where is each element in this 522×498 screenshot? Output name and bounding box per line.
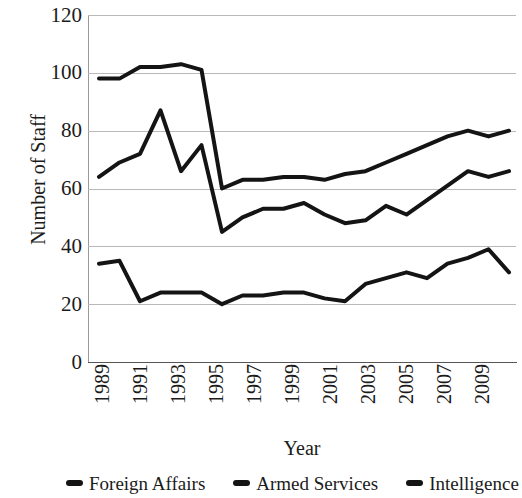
x-tick-label: 1993 <box>168 364 188 430</box>
y-tick-label: 80 <box>36 120 82 141</box>
chart-legend: Foreign Affairs Armed Services Intellige… <box>0 468 522 498</box>
y-tick-label: 0 <box>36 352 82 373</box>
x-axis-title: Year <box>88 437 516 460</box>
x-axis-line <box>88 362 517 363</box>
line-armed-services <box>99 110 509 231</box>
y-tick-label: 120 <box>36 5 82 26</box>
line-foreign-affairs <box>99 64 509 188</box>
x-axis-tick-labels: 1989 1991 1993 1995 1997 1999 2001 2003 … <box>88 364 516 436</box>
x-tick-label: 1995 <box>206 364 226 430</box>
series-lines <box>88 15 516 362</box>
x-tick-label: 2007 <box>434 364 454 430</box>
x-tick-label: 1991 <box>130 364 150 430</box>
line-intelligence <box>99 249 509 304</box>
legend-item-armed-services[interactable]: Armed Services <box>233 474 378 493</box>
y-tick-label: 60 <box>36 178 82 199</box>
legend-label: Intelligence <box>429 474 519 493</box>
y-axis-tick-labels: 120 100 80 60 40 20 0 <box>30 0 82 380</box>
legend-line-marker-icon <box>233 480 250 486</box>
x-tick-label: 2009 <box>472 364 492 430</box>
legend-label: Armed Services <box>256 474 378 493</box>
legend-item-intelligence[interactable]: Intelligence <box>406 474 519 493</box>
x-tick-label: 2001 <box>320 364 340 430</box>
line-chart-figure: Number of Staff 120 100 80 60 40 20 0 19… <box>0 0 522 498</box>
legend-line-marker-icon <box>66 480 83 486</box>
x-tick-label: 2005 <box>396 364 416 430</box>
x-tick-label: 1989 <box>92 364 112 430</box>
plot-area <box>88 15 516 362</box>
legend-label: Foreign Affairs <box>89 474 205 493</box>
x-tick-label: 2003 <box>358 364 378 430</box>
y-tick-label: 20 <box>36 294 82 315</box>
x-tick-label: 1997 <box>244 364 264 430</box>
legend-line-marker-icon <box>406 480 423 486</box>
y-tick-label: 100 <box>36 62 82 83</box>
y-tick-label: 40 <box>36 236 82 257</box>
legend-item-foreign-affairs[interactable]: Foreign Affairs <box>66 474 205 493</box>
x-tick-label: 1999 <box>282 364 302 430</box>
